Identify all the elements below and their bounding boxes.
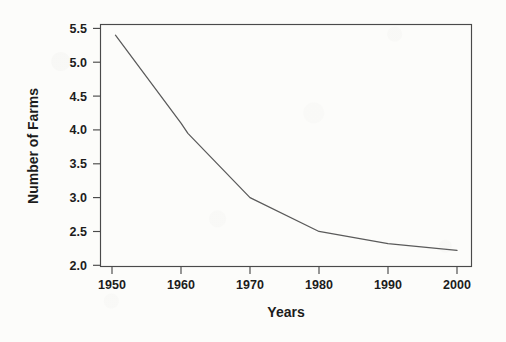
x-axis-tick-labels: 1950 1960 1970 1980 1990 2000 [98, 278, 471, 292]
x-tick-label-2000: 2000 [443, 278, 471, 292]
y-axis-title: Number of Farms [25, 88, 41, 204]
x-tick-label-1950: 1950 [98, 278, 126, 292]
x-axis-ticks [112, 267, 457, 275]
y-tick-label-2.0: 2.0 [70, 259, 87, 273]
line-chart-canvas: 2.0 2.5 3.0 3.5 4.0 4.5 5.0 5.5 1950 196… [0, 0, 506, 342]
x-axis-title: Years [267, 304, 305, 320]
y-axis-ticks [93, 28, 101, 265]
x-tick-label-1980: 1980 [305, 278, 333, 292]
x-tick-label-1960: 1960 [167, 278, 195, 292]
chart-figure: 2.0 2.5 3.0 3.5 4.0 4.5 5.0 5.5 1950 196… [0, 0, 506, 342]
y-tick-label-4.5: 4.5 [70, 90, 87, 104]
y-tick-label-3.5: 3.5 [70, 157, 87, 171]
data-series-line [115, 35, 457, 250]
y-axis-tick-labels: 2.0 2.5 3.0 3.5 4.0 4.5 5.0 5.5 [70, 22, 87, 273]
y-tick-label-5.5: 5.5 [70, 22, 87, 36]
y-tick-label-3.0: 3.0 [70, 191, 87, 205]
y-tick-label-5.0: 5.0 [70, 56, 87, 70]
y-tick-label-4.0: 4.0 [70, 123, 87, 137]
plot-frame [101, 25, 472, 267]
x-tick-label-1970: 1970 [236, 278, 264, 292]
x-tick-label-1990: 1990 [374, 278, 402, 292]
y-tick-label-2.5: 2.5 [70, 225, 87, 239]
